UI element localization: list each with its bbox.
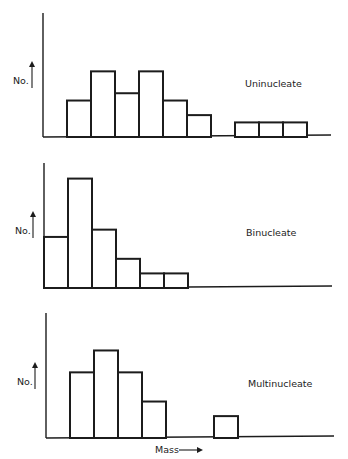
panel-title: Uninucleate (245, 78, 302, 89)
y-axis-label: No. (13, 75, 29, 86)
histogram-bar (92, 230, 116, 288)
histogram-bar (67, 101, 91, 137)
histogram-bar (283, 122, 307, 137)
histogram-bar (115, 93, 139, 137)
histogram-bar (163, 101, 187, 137)
y-axis-label: No. (15, 225, 31, 236)
bars (44, 179, 188, 288)
y-arrowhead-icon (30, 211, 36, 217)
histogram-bar (118, 372, 142, 438)
bars (70, 350, 238, 438)
histogram-bar (187, 115, 211, 137)
y-arrowhead-icon (29, 61, 35, 67)
panel-title: Binucleate (246, 227, 296, 238)
panel-multinucleate: No. Multinucleate Mass (17, 313, 334, 455)
histogram-bar (68, 179, 92, 288)
histogram-bar (235, 122, 259, 137)
histogram-figure: No. Uninucleate No. Binucleate No. Multi… (0, 0, 348, 459)
x-arrowhead-icon (197, 447, 203, 453)
histogram-bar (142, 402, 166, 438)
histogram-bar (91, 71, 115, 137)
panel-uninucleate: No. Uninucleate (13, 13, 331, 137)
histogram-bar (214, 416, 238, 438)
panel-title: Multinucleate (248, 378, 313, 389)
y-arrowhead-icon (32, 362, 38, 368)
panel-binucleate: No. Binucleate (15, 163, 332, 288)
histogram-bar (140, 273, 164, 288)
histogram-bar (70, 372, 94, 438)
histogram-bar (259, 122, 283, 137)
y-axis-label: No. (17, 376, 33, 387)
x-axis-label: Mass (155, 444, 179, 455)
histogram-bar (94, 350, 118, 438)
histogram-bar (44, 237, 68, 288)
histogram-bar (164, 273, 188, 288)
histogram-bar (139, 71, 163, 137)
histogram-bar (116, 259, 140, 288)
